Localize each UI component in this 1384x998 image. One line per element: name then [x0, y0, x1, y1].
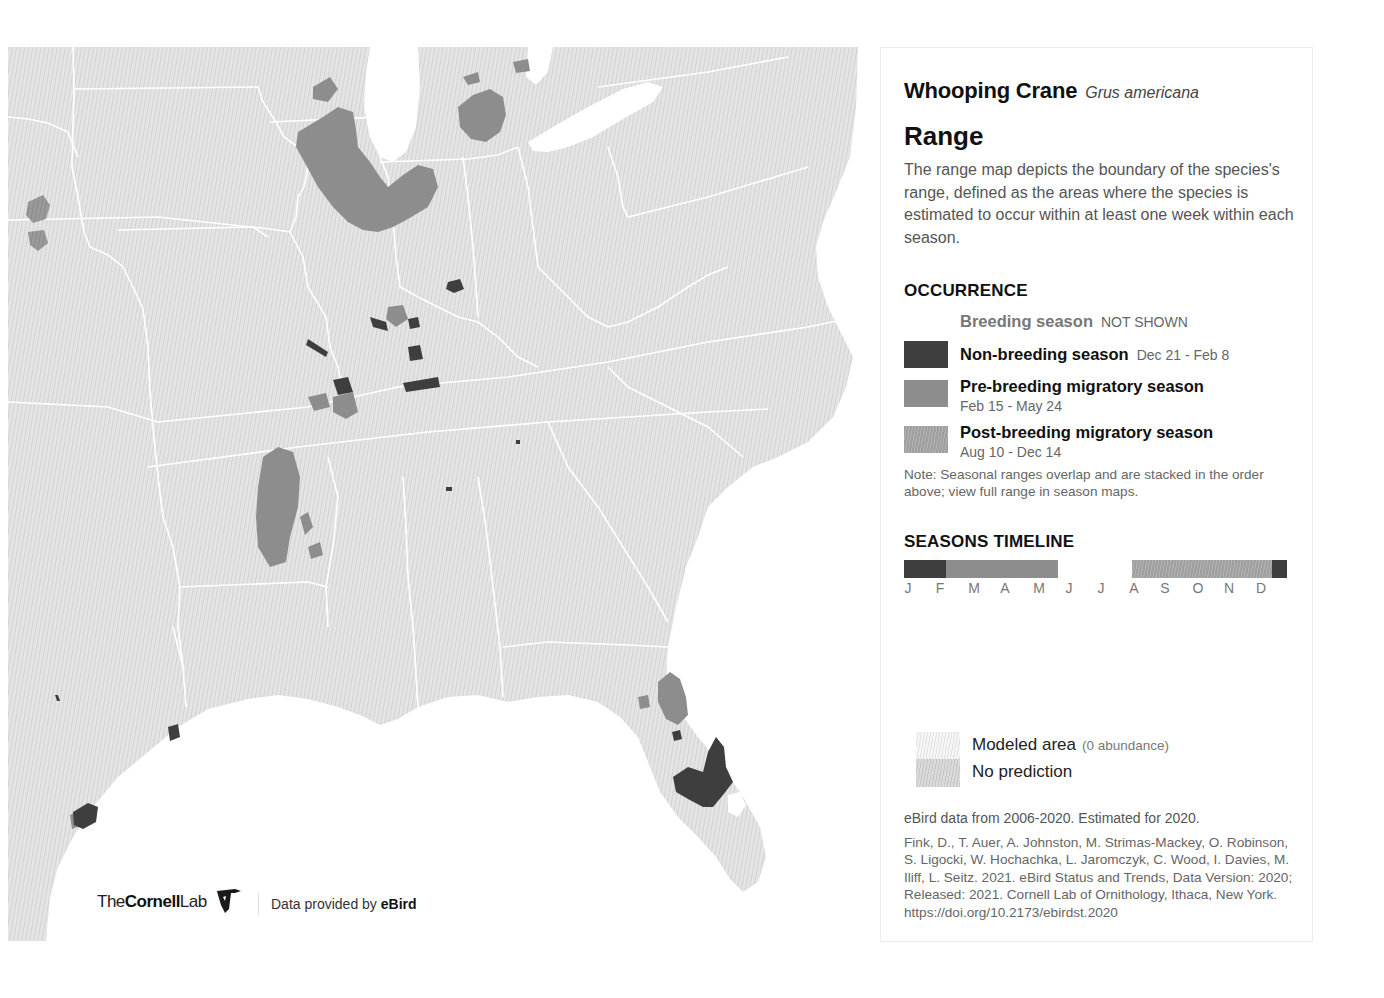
- info-panel: Whooping CraneGrus americana Range The r…: [880, 47, 1313, 942]
- range-description: The range map depicts the boundary of th…: [904, 159, 1299, 249]
- species-scientific-name: Grus americana: [1085, 84, 1199, 101]
- data-provided-by: Data provided by eBird: [271, 896, 417, 912]
- ebird-link[interactable]: eBird: [381, 896, 417, 912]
- range-map[interactable]: [8, 47, 880, 941]
- timeline-heading: SEASONS TIMELINE: [904, 532, 1074, 552]
- no-prediction-label: No prediction: [972, 762, 1072, 782]
- map-canvas: [8, 47, 880, 941]
- ebird-data-note: eBird data from 2006-2020. Estimated for…: [904, 810, 1200, 826]
- timeline-months: J F M A M J J A S O N D: [904, 580, 1294, 598]
- postbreeding-swatch: [904, 426, 948, 453]
- timeline-postbreeding: [1132, 560, 1272, 578]
- no-prediction-swatch: [916, 759, 960, 787]
- occurrence-heading: OCCURRENCE: [904, 281, 1028, 301]
- occurrence-item-nonbreeding: Non-breeding seasonDec 21 - Feb 8: [904, 341, 1304, 371]
- occurrence-item-postbreeding: Post-breeding migratory season Aug 10 - …: [904, 426, 1304, 466]
- timeline-nonbreeding-late: [1272, 560, 1287, 578]
- species-header: Whooping CraneGrus americana: [904, 78, 1199, 104]
- citation: Fink, D., T. Auer, A. Johnston, M. Strim…: [904, 834, 1304, 921]
- occurrence-item-prebreeding: Pre-breeding migratory season Feb 15 - M…: [904, 380, 1304, 420]
- timeline-prebreeding: [946, 560, 1058, 578]
- occurrence-item-breeding: Breeding seasonNOT SHOWN: [904, 310, 1304, 336]
- cornell-lab-logo[interactable]: TheCornellLab: [97, 887, 243, 921]
- modeled-area-label: Modeled area(0 abundance): [972, 735, 1169, 755]
- species-common-name: Whooping Crane: [904, 78, 1077, 103]
- modeled-area-swatch: [916, 732, 960, 760]
- nonbreeding-swatch: [904, 341, 948, 368]
- prebreeding-swatch: [904, 380, 948, 407]
- not-shown-badge: NOT SHOWN: [1101, 314, 1188, 330]
- logo-divider: [258, 893, 259, 915]
- timeline-nonbreeding-early: [904, 560, 946, 578]
- seasons-timeline: [904, 560, 1290, 578]
- bird-logo-icon: [213, 887, 243, 915]
- range-title: Range: [904, 121, 983, 152]
- overlap-note: Note: Seasonal ranges overlap and are st…: [904, 466, 1299, 500]
